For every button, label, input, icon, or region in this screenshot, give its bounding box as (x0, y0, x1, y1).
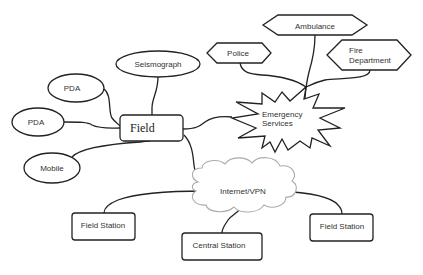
node-central-station[interactable]: Central Station (182, 233, 262, 260)
field-station-right-label: Field Station (320, 222, 364, 231)
edge-internet-field-station-left (104, 191, 205, 213)
edge-emergency-ambulance (305, 35, 315, 98)
edge-mobile-field (72, 141, 150, 157)
fire-department-label-line2: Department (349, 56, 392, 65)
mobile-label: Mobile (40, 164, 64, 173)
node-internet-vpn[interactable]: Internet/VPN (192, 158, 296, 212)
node-emergency-services[interactable]: Emergency Services (232, 87, 345, 152)
fire-department-label-line1: Fire (349, 46, 363, 55)
police-label: Police (227, 49, 249, 58)
node-pda-lower[interactable]: PDA (12, 108, 64, 136)
pda-upper-label: PDA (64, 84, 81, 93)
emergency-services-label-line2: Services (262, 119, 293, 128)
emergency-services-label-line1: Emergency (262, 110, 302, 119)
internet-vpn-label: Internet/VPN (220, 187, 266, 196)
node-ambulance[interactable]: Ambulance (263, 15, 367, 35)
diagram-canvas: Internet/VPN Emergency Services Field Se… (0, 0, 423, 275)
node-police[interactable]: Police (207, 43, 271, 63)
edge-field-emergency (183, 117, 232, 129)
seismograph-label: Seismograph (134, 60, 181, 69)
node-field[interactable]: Field (120, 115, 183, 141)
edge-seismograph-field (152, 77, 158, 115)
edge-pda-upper-field (104, 89, 120, 126)
cloud-shape (192, 158, 296, 212)
ambulance-label: Ambulance (295, 22, 336, 31)
node-fire-department[interactable]: Fire Department (327, 40, 411, 70)
field-station-left-label: Field Station (81, 221, 125, 230)
edge-pda-lower-field (64, 122, 120, 128)
node-mobile[interactable]: Mobile (24, 153, 80, 183)
central-station-label: Central Station (193, 241, 246, 250)
node-pda-upper[interactable]: PDA (48, 74, 104, 102)
node-field-station-right[interactable]: Field Station (310, 214, 373, 241)
node-field-station-left[interactable]: Field Station (72, 213, 135, 240)
fire-department-hexagon (327, 40, 411, 70)
pda-lower-label: PDA (28, 118, 45, 127)
field-label: Field (130, 121, 155, 135)
edge-emergency-police (240, 63, 306, 87)
node-seismograph[interactable]: Seismograph (116, 51, 200, 77)
